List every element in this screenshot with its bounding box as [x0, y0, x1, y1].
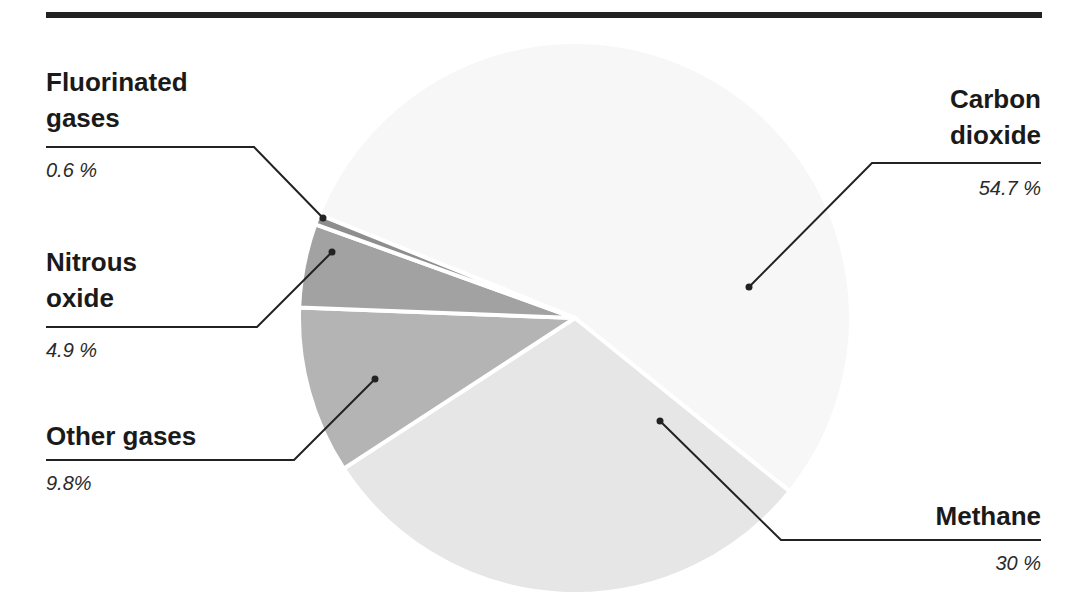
value-other-gases: 9.8% — [46, 471, 92, 495]
label-methane: Methane — [936, 498, 1041, 534]
leader-dot-co2 — [746, 284, 753, 291]
label-fluorinated-line1: Fluorinated — [46, 64, 188, 100]
label-co2-line1: Carbon — [950, 81, 1041, 117]
label-nitrous-line2: oxide — [46, 280, 137, 316]
leader-dot-other — [372, 376, 379, 383]
value-nitrous-oxide: 4.9 % — [46, 338, 97, 362]
label-carbon-dioxide: Carbon dioxide — [950, 81, 1041, 153]
value-methane: 30 % — [995, 551, 1041, 575]
pie-slices — [299, 42, 851, 594]
label-nitrous-line1: Nitrous — [46, 244, 137, 280]
label-other-line1: Other gases — [46, 418, 196, 454]
leader-dot-fluorinated — [320, 215, 327, 222]
label-nitrous-oxide: Nitrous oxide — [46, 244, 137, 316]
label-fluorinated-line2: gases — [46, 100, 188, 136]
label-co2-line2: dioxide — [950, 117, 1041, 153]
value-carbon-dioxide: 54.7 % — [979, 176, 1041, 200]
label-methane-line1: Methane — [936, 498, 1041, 534]
leader-dot-nitrous — [329, 249, 336, 256]
leader-dot-methane — [657, 418, 664, 425]
value-fluorinated-gases: 0.6 % — [46, 158, 97, 182]
label-fluorinated-gases: Fluorinated gases — [46, 64, 188, 136]
label-other-gases: Other gases — [46, 418, 196, 454]
